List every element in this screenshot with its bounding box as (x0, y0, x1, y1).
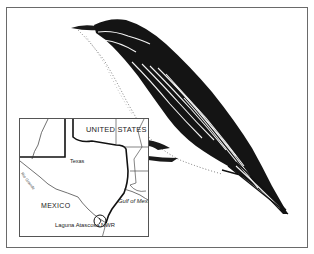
label-laguna-atascosa-nwr: Laguna Atascosa NWR (55, 223, 115, 229)
label-united-states: UNITED STATES (86, 126, 147, 134)
location-inset-map: UNITED STATES Texas MEXICO Gulf of Mexic… (19, 118, 149, 237)
label-texas: Texas (70, 159, 84, 165)
label-mexico: MEXICO (41, 202, 70, 209)
map-outline-icon (20, 119, 149, 237)
label-gulf-of-mexico: Gulf of Mexico (118, 199, 149, 205)
